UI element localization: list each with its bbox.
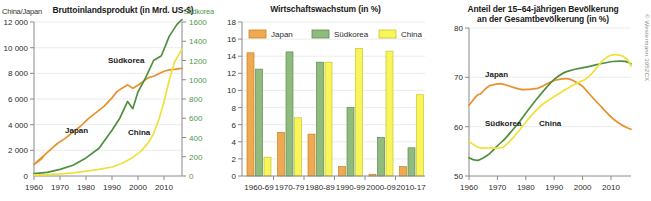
panel1-gridlines (34, 22, 182, 150)
panel1-y2tick-0: 0 (189, 172, 194, 181)
panel1-x-axis: 1960 1970 1980 1990 2000 2010 (25, 176, 182, 192)
panel2-ytick-18: 18 (227, 18, 236, 27)
legend-label-japan: Japan (271, 30, 293, 39)
bar-suedkorea-1960-69 (256, 69, 263, 176)
panel3-ytick-70: 70 (454, 73, 463, 82)
panel3-ytick-60: 60 (454, 123, 463, 132)
panel1-ytick-8000: 8 000 (8, 69, 29, 78)
panel2-ytick-12: 12 (227, 69, 236, 78)
bar-japan-1970-79 (278, 132, 285, 176)
panel-gdp: Bruttoinlandsprodukt (in Mrd. US-$) Chin… (0, 0, 216, 201)
panel1-y2tick-600: 600 (189, 114, 203, 123)
panel2-ytick-4: 4 (232, 138, 237, 147)
panel3-series-label-japan: Japan (485, 70, 508, 79)
panel3-xtick-2010: 2010 (602, 183, 620, 192)
panel3-series-label-china: China (539, 119, 562, 128)
copyright-credit: © Westermann 3952CX (644, 14, 650, 94)
bar-china-2010-17 (417, 95, 424, 176)
panel3-xtick-2000: 2000 (574, 183, 592, 192)
panel2-ytick-0: 0 (232, 172, 237, 181)
panel1-xtick-2010: 2010 (155, 183, 173, 192)
legend-swatch-china (379, 30, 396, 38)
panel1-y2tick-200: 200 (189, 153, 203, 162)
panel1-series-label-japan: Japan (65, 126, 88, 135)
bar-suedkorea-1980-89 (317, 62, 324, 176)
panel1-ytick-12000: 12 000 (4, 18, 29, 27)
panel1-ytick-0: 0 (24, 172, 29, 181)
panel3-line-china (469, 55, 631, 149)
panel1-y-axis-right: 1600 1400 1200 1000 800 600 400 200 0 (182, 18, 207, 181)
panel2-y-axis: 18 16 14 12 10 8 6 4 2 0 (227, 18, 242, 181)
panel1-ytick-4000: 4 000 (8, 121, 29, 130)
panel3-plot: 80 70 60 50 1960 1970 1980 1990 2000 201… (431, 0, 651, 201)
bar-japan-1990-99 (339, 167, 346, 176)
legend-swatch-japan (249, 30, 266, 38)
panel2-gridlines (242, 22, 425, 159)
panel3-xtick-1980: 1980 (517, 183, 535, 192)
panel1-xtick-1990: 1990 (103, 183, 121, 192)
panel1-y2tick-1600: 1600 (189, 18, 207, 27)
panel1-xtick-1970: 1970 (51, 183, 69, 192)
panel1-xtick-2000: 2000 (129, 183, 147, 192)
bar-suedkorea-2010-17 (408, 148, 415, 176)
panel3-ytick-80: 80 (454, 24, 463, 33)
panel3-series-label-korea: Südkorea (485, 119, 522, 128)
panel1-y2tick-400: 400 (189, 134, 203, 143)
panel1-series-label-china: China (128, 128, 151, 137)
panel1-y2tick-1000: 1000 (189, 76, 207, 85)
panel1-xtick-1980: 1980 (77, 183, 95, 192)
bar-suedkorea-1990-99 (347, 108, 354, 176)
bar-japan-1980-89 (308, 134, 315, 176)
panel2-plot: 18 16 14 12 10 8 6 4 2 0 Japan Südkorea … (216, 0, 431, 201)
panel1-plot: 12 000 10 000 8 000 6 000 4 000 2 000 0 (0, 0, 216, 201)
panel1-ytick-2000: 2 000 (8, 146, 29, 155)
panel2-ytick-8: 8 (232, 104, 237, 113)
bar-china-1960-69 (264, 157, 271, 176)
panel3-xtick-1990: 1990 (545, 183, 563, 192)
panel2-xtick-1960-69: 1960-69 (244, 183, 274, 192)
panel1-series-label-korea: Südkorea (108, 56, 145, 65)
panel2-xtick-2010-17: 2010-17 (396, 183, 426, 192)
legend-label-suedkorea: Südkorea (334, 30, 369, 39)
bar-japan-2010-17 (400, 167, 407, 176)
legend-label-china: China (401, 30, 422, 39)
panel3-y-axis: 80 70 60 50 (454, 24, 469, 181)
panel-working-age-share: Anteil der 15–64-jährigen Bevölkerung an… (431, 0, 651, 201)
panel1-ytick-6000: 6 000 (8, 95, 29, 104)
panel1-y-axis-left: 12 000 10 000 8 000 6 000 4 000 2 000 0 (4, 18, 34, 181)
bar-china-1980-89 (325, 62, 332, 176)
bar-china-1970-79 (295, 118, 302, 176)
bar-suedkorea-1970-79 (286, 52, 293, 176)
panel2-ytick-6: 6 (232, 121, 237, 130)
panel3-ytick-50: 50 (454, 172, 463, 181)
bar-china-1990-99 (356, 49, 363, 177)
panel2-xtick-2000-09: 2000-09 (366, 183, 396, 192)
panel1-ytick-10000: 10 000 (4, 44, 29, 53)
legend-swatch-suedkorea (312, 30, 329, 38)
panel2-bars (247, 49, 424, 177)
panel3-xtick-1960: 1960 (460, 183, 478, 192)
bar-japan-1960-69 (247, 53, 254, 176)
panel3-xtick-1970: 1970 (489, 183, 507, 192)
panel1-y2tick-800: 800 (189, 95, 203, 104)
panel2-ytick-16: 16 (227, 35, 236, 44)
panel1-line-china (34, 49, 182, 175)
panel2-ytick-14: 14 (227, 52, 236, 61)
panel1-y2tick-1400: 1400 (189, 37, 207, 46)
bar-suedkorea-2000-09 (378, 138, 385, 177)
panel2-ytick-2: 2 (232, 155, 237, 164)
bar-china-2000-09 (386, 51, 393, 176)
panel3-x-axis: 1960 1970 1980 1990 2000 2010 (460, 176, 631, 192)
panel2-legend: Japan Südkorea China (249, 30, 422, 39)
panel2-xtick-1980-89: 1980-89 (305, 183, 335, 192)
panel1-y2tick-1200: 1200 (189, 57, 207, 66)
panel2-ytick-10: 10 (227, 86, 236, 95)
panel1-xtick-1960: 1960 (25, 183, 43, 192)
panel2-xtick-1970-79: 1970-79 (275, 183, 305, 192)
infographic-sheet: Bruttoinlandsprodukt (in Mrd. US-$) Chin… (0, 0, 651, 201)
panel2-xtick-1990-99: 1990-99 (336, 183, 366, 192)
panel-growth: Wirtschaftswachstum (in %) (216, 0, 431, 201)
panel2-x-axis: 1960-69 1970-79 1980-89 1990-99 2000-09 … (242, 176, 426, 192)
